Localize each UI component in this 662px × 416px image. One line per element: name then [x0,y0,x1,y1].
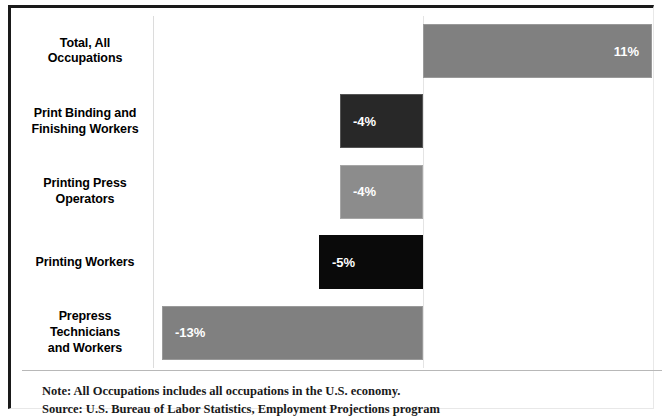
category-label: Printing Press Operators [22,157,148,227]
category-label-line: Technicians [50,325,120,339]
category-label: Printing Workers [22,227,148,297]
bar-printing-press-operators[interactable]: -4% [340,165,423,219]
note-separator [22,370,662,371]
category-label-line: Printing Workers [36,255,135,269]
chart-row: Total, All Occupations 11% [22,16,662,86]
bar-value-label: -4% [353,184,376,199]
chart-figure: Total, All Occupations 11% Print Binding… [0,0,662,416]
bar-value-label: 11% [614,44,639,59]
chart-row: Print Binding and Finishing Workers -4% [22,86,662,156]
bar-total-all-occupations[interactable]: 11% [423,24,652,78]
category-label-line: Total, All [60,36,110,50]
bar-prepress-technicians-and-workers[interactable]: -13% [162,306,423,360]
category-label-line: and Workers [48,341,122,355]
bar-value-label: -13% [175,325,205,340]
category-label: Prepress Technicians and Workers [22,298,148,368]
category-label-line: Operators [56,192,115,206]
category-label-line: Occupations [48,51,123,65]
chart-frame: Total, All Occupations 11% Print Binding… [8,5,654,409]
category-label-line: Print Binding and [34,106,136,120]
category-label: Total, All Occupations [22,16,148,86]
bar-value-label: -5% [332,255,355,270]
bar-value-label: -4% [353,114,376,129]
category-label: Print Binding and Finishing Workers [22,86,148,156]
note-text: Note: All Occupations includes all occup… [42,382,642,400]
bar-print-binding-and-finishing-workers[interactable]: -4% [340,94,423,148]
category-label-line: Printing Press [43,176,126,190]
bar-printing-workers[interactable]: -5% [319,235,423,289]
category-label-line: Finishing Workers [31,122,138,136]
chart-row: Printing Press Operators -4% [22,157,662,227]
chart-notes: Note: All Occupations includes all occup… [42,382,642,416]
chart-row: Prepress Technicians and Workers -13% [22,298,662,368]
chart-row: Printing Workers -5% [22,227,662,297]
category-label-line: Prepress [59,309,112,323]
plot-area: Total, All Occupations 11% Print Binding… [22,16,662,368]
source-text: Source: U.S. Bureau of Labor Statistics,… [42,400,642,416]
